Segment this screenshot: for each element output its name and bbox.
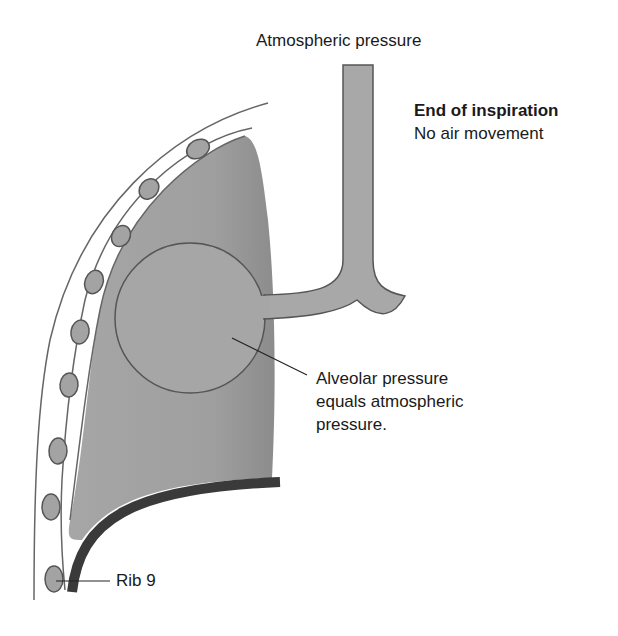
alveolar-label-line2: equals atmospheric (316, 391, 463, 412)
state-subheading: No air movement (414, 123, 543, 144)
alveolar-label-line1: Alveolar pressure (316, 368, 448, 389)
rib-9-label: Rib 9 (116, 570, 156, 591)
alveolar-label-line3: pressure. (316, 414, 387, 435)
airway (264, 65, 405, 319)
atmospheric-pressure-label: Atmospheric pressure (256, 30, 421, 51)
lung-diagram (0, 0, 618, 636)
state-heading: End of inspiration (414, 100, 559, 121)
alveolus (115, 243, 265, 393)
